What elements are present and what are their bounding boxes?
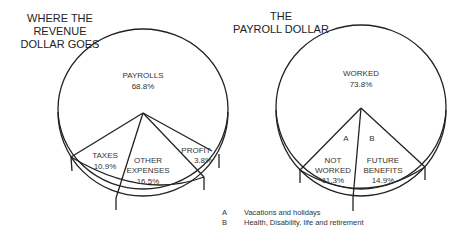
label-taxes: TAXES xyxy=(92,151,118,160)
legend: AVacations and holidays BHealth, Disabil… xyxy=(222,208,364,228)
right-pie-top-face xyxy=(276,25,446,189)
label-payrolls-pct: 68.8% xyxy=(132,82,155,91)
label-marker-a: A xyxy=(343,134,349,143)
label-future-pct: 14.9% xyxy=(372,176,395,185)
legend-text-b: Health, Disability, life and retirement xyxy=(244,218,364,227)
label-taxes-pct: 10.9% xyxy=(94,162,117,171)
right-pie xyxy=(276,25,446,211)
label-other-pct: 16.5% xyxy=(137,177,160,186)
label-profit-pct: 3.8% xyxy=(194,156,212,165)
label-other-line1: OTHER xyxy=(134,156,162,165)
legend-item-a: AVacations and holidays xyxy=(222,208,364,218)
label-marker-b: B xyxy=(369,134,374,143)
label-future-line1: FUTURE xyxy=(367,156,399,165)
right-wedge-divider xyxy=(353,108,361,198)
left-pie-top-face xyxy=(58,29,228,189)
label-notworked-line2: WORKED xyxy=(315,166,351,175)
legend-key-a: A xyxy=(222,208,244,218)
right-pie-rim xyxy=(276,110,446,196)
charts-canvas: PAYROLLS 68.8% TAXES 10.9% OTHER EXPENSE… xyxy=(0,0,454,236)
label-profit: PROFIT xyxy=(181,146,210,155)
label-notworked-line1: NOT xyxy=(325,156,342,165)
label-notworked-pct: 11.3% xyxy=(322,176,344,185)
legend-key-b: B xyxy=(222,218,244,228)
label-payrolls: PAYROLLS xyxy=(122,71,163,80)
label-worked-pct: 73.8% xyxy=(350,80,373,89)
legend-item-b: BHealth, Disability, life and retirement xyxy=(222,218,364,228)
label-worked: WORKED xyxy=(343,69,379,78)
label-future-line2: BENEFITS xyxy=(363,166,402,175)
legend-text-a: Vacations and holidays xyxy=(244,208,321,217)
label-other-line2: EXPENSES xyxy=(126,166,169,175)
